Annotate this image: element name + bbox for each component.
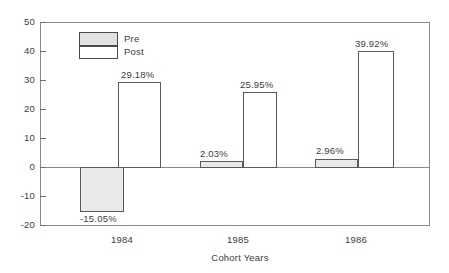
x-tick-label-1985: 1985	[216, 235, 260, 245]
y-tick-mark	[40, 80, 46, 81]
bar-label-post-1985: 25.95%	[240, 80, 273, 90]
x-tick-label-1986: 1986	[334, 235, 378, 245]
y-tick-mark	[40, 196, 46, 197]
bar-post-1985	[243, 92, 277, 168]
y-tick-mark	[40, 22, 46, 23]
bar-label-post-1986: 39.92%	[355, 39, 388, 49]
y-tick-label: 20	[1, 104, 35, 114]
legend-label-post: Post	[124, 47, 144, 57]
y-tick-mark	[40, 138, 46, 139]
x-axis-title: Cohort Years	[190, 253, 290, 263]
y-tick-mark	[40, 109, 46, 110]
y-tick-label: 10	[1, 133, 35, 143]
y-tick-mark	[40, 225, 46, 226]
y-tick-label: 50	[1, 17, 35, 27]
bar-chart: 50 40 30 20 10 0 -10 -20 -15.05% 29.18% …	[0, 0, 449, 273]
y-tick-label: -20	[1, 220, 35, 230]
bar-label-pre-1984: -15.05%	[80, 214, 117, 224]
y-tick-label: 40	[1, 46, 35, 56]
y-tick-label: 0	[1, 162, 35, 172]
bar-post-1986	[358, 51, 394, 168]
bar-label-post-1984: 29.18%	[121, 70, 154, 80]
legend-swatch-pre	[79, 32, 118, 46]
y-tick-label: -10	[1, 191, 35, 201]
y-tick-mark	[40, 167, 46, 168]
bar-label-pre-1985: 2.03%	[200, 149, 228, 159]
bar-label-pre-1986: 2.96%	[316, 146, 344, 156]
y-tick-label: 30	[1, 75, 35, 85]
legend-swatch-post	[79, 46, 118, 60]
bar-post-1984	[118, 82, 161, 168]
bar-pre-1985	[200, 161, 243, 168]
x-tick-label-1984: 1984	[100, 235, 144, 245]
bar-pre-1986	[315, 159, 358, 168]
legend: Pre Post	[79, 32, 118, 59]
bar-pre-1984	[80, 167, 124, 212]
y-tick-mark	[40, 51, 46, 52]
legend-label-pre: Pre	[124, 34, 139, 44]
